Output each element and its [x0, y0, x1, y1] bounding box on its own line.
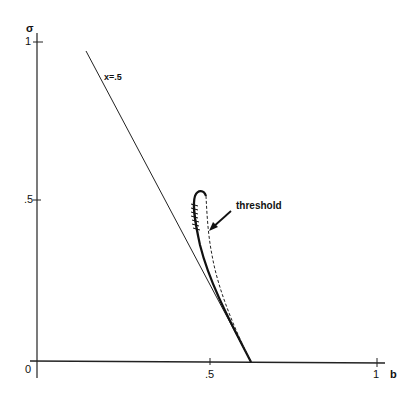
x-tick-1: 1	[373, 368, 379, 380]
threshold-label: threshold	[236, 200, 282, 211]
chart-canvas	[0, 0, 418, 400]
x-axis-label: b	[390, 368, 397, 380]
x-tick-05: .5	[205, 368, 214, 380]
x-half-line-label: x=.5	[104, 72, 122, 82]
y-axis-label: σ	[26, 22, 34, 34]
threshold-curve	[206, 196, 251, 362]
y-tick-05: .5	[24, 193, 33, 205]
origin-label: 0	[25, 363, 31, 375]
y-tick-1: 1	[25, 35, 31, 47]
x-axis	[30, 361, 385, 363]
solid-curve	[194, 191, 251, 362]
